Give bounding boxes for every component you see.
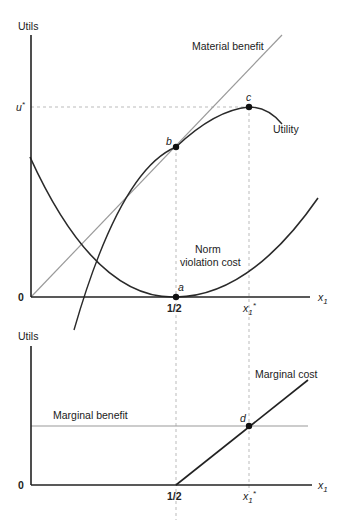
top-y-axis-label: Utils (18, 20, 38, 32)
top-x-axis-label: x1 (317, 291, 328, 306)
top-origin-label: 0 (18, 291, 24, 303)
point-c-label: c (246, 91, 252, 103)
top-half-label: 1/2 (167, 302, 182, 314)
point-c (246, 104, 252, 110)
material-benefit-line (31, 35, 282, 297)
top-panel: Utils 0 x1 u* 1/2 x1* Material benefit U… (16, 20, 328, 520)
norm-cost-label-1: Norm (195, 243, 221, 255)
utility-label: Utility (273, 123, 299, 135)
point-a (173, 294, 179, 300)
point-a-label: a (178, 281, 184, 293)
point-d-label: d (240, 412, 247, 424)
bottom-panel: Utils 0 x1 1/2 x1* Marginal benefit Marg… (18, 330, 328, 505)
u-star-label: u* (16, 100, 26, 113)
bottom-half-label: 1/2 (167, 490, 182, 502)
bottom-y-axis-label: Utils (18, 330, 38, 342)
material-benefit-label: Material benefit (192, 40, 264, 52)
marginal-cost-label: Marginal cost (255, 368, 318, 380)
marginal-cost-line (176, 380, 308, 485)
point-b-label: b (166, 135, 172, 147)
diagram: Utils 0 x1 u* 1/2 x1* Material benefit U… (0, 0, 344, 520)
norm-cost-label-2: violation cost (180, 256, 241, 268)
bottom-x-axis-label: x1 (317, 479, 328, 494)
bottom-origin-label: 0 (18, 479, 24, 491)
point-b (173, 144, 179, 150)
top-x1-star-label: x1* (242, 301, 257, 317)
marginal-benefit-label: Marginal benefit (53, 409, 128, 421)
point-d (246, 423, 252, 429)
norm-violation-cost-curve (30, 157, 318, 297)
